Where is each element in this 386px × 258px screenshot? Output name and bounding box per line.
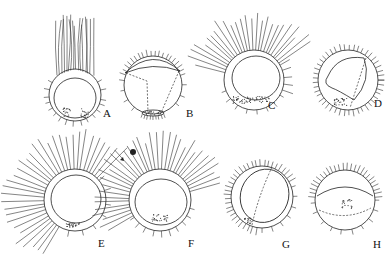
label-a: A — [103, 107, 111, 119]
specimen-h — [308, 163, 382, 235]
specimen-figure: ABCDEFGH — [0, 0, 386, 258]
label-b: B — [186, 107, 193, 119]
specimen-e — [1, 129, 127, 254]
label-g: G — [282, 238, 290, 250]
label-e: E — [98, 237, 105, 249]
label-c: C — [268, 99, 275, 111]
label-f: F — [188, 237, 194, 249]
specimen-f — [92, 131, 220, 238]
label-h: H — [373, 238, 381, 250]
label-d: D — [374, 97, 382, 109]
specimen-c — [188, 13, 311, 114]
specimen-g — [224, 159, 298, 235]
specimen-a — [44, 15, 106, 127]
specimen-b — [119, 50, 187, 120]
